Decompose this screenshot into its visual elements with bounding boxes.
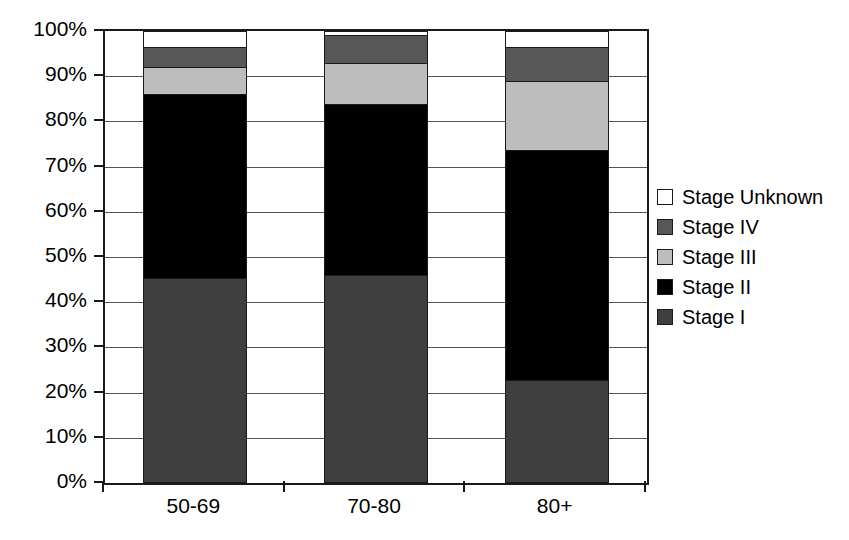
legend-item-stage-i[interactable]: Stage I bbox=[657, 302, 823, 332]
legend-item-label: Stage I bbox=[682, 307, 745, 327]
bar-segment-stage-ii[interactable] bbox=[324, 104, 428, 274]
y-axis-tick-label: 60% bbox=[0, 199, 87, 220]
bar-segment-stage-iii[interactable] bbox=[505, 81, 609, 150]
bar-segment-stage-i[interactable] bbox=[505, 380, 609, 483]
y-axis-tick-mark bbox=[94, 29, 103, 31]
y-axis-tick-label: 30% bbox=[0, 334, 87, 355]
y-axis-tick-label: 100% bbox=[0, 18, 87, 39]
y-axis-tick-mark bbox=[94, 74, 103, 76]
x-axis-label-80+: 80+ bbox=[475, 494, 635, 518]
legend-swatch-icon bbox=[657, 249, 673, 265]
bar-80+[interactable] bbox=[505, 31, 609, 483]
y-axis-tick-label: 20% bbox=[0, 380, 87, 401]
y-axis-tick-label: 0% bbox=[0, 470, 87, 491]
legend-swatch-icon bbox=[657, 309, 673, 325]
bar-50-69[interactable] bbox=[143, 31, 247, 483]
y-axis-tick-mark bbox=[94, 300, 103, 302]
bar-segment-stage-iv[interactable] bbox=[143, 47, 247, 67]
legend-swatch-icon bbox=[657, 219, 673, 235]
legend-item-label: Stage IV bbox=[682, 217, 759, 237]
x-axis-label-50-69: 50-69 bbox=[113, 494, 273, 518]
legend-swatch-icon bbox=[657, 279, 673, 295]
bar-segment-stage-iii[interactable] bbox=[143, 67, 247, 94]
bar-segment-stage-i[interactable] bbox=[143, 278, 247, 483]
chart-legend: Stage UnknownStage IVStage IIIStage IISt… bbox=[657, 182, 823, 332]
legend-item-stage-iv[interactable]: Stage IV bbox=[657, 212, 823, 242]
y-axis-tick-mark bbox=[94, 255, 103, 257]
x-axis-tick-mark bbox=[102, 481, 104, 492]
x-axis-label-70-80: 70-80 bbox=[294, 494, 454, 518]
legend-item-label: Stage III bbox=[682, 247, 757, 267]
bar-segment-stage-i[interactable] bbox=[324, 275, 428, 483]
bar-70-80[interactable] bbox=[324, 31, 428, 483]
y-axis-tick-label: 40% bbox=[0, 289, 87, 310]
x-axis-tick-mark bbox=[463, 481, 465, 492]
x-axis-tick-mark bbox=[644, 481, 646, 492]
y-axis-tick-label: 90% bbox=[0, 63, 87, 84]
y-axis-tick-mark bbox=[94, 436, 103, 438]
bar-segment-stage-ii[interactable] bbox=[143, 94, 247, 278]
legend-item-stage-iii[interactable]: Stage III bbox=[657, 242, 823, 272]
y-axis-tick-label: 10% bbox=[0, 425, 87, 446]
legend-item-label: Stage Unknown bbox=[682, 187, 823, 207]
y-axis-tick-mark bbox=[94, 165, 103, 167]
legend-item-stage-unknown[interactable]: Stage Unknown bbox=[657, 182, 823, 212]
y-axis-tick-mark bbox=[94, 391, 103, 393]
bar-segment-stage-iv[interactable] bbox=[324, 35, 428, 63]
y-axis-tick-mark bbox=[94, 345, 103, 347]
bar-segment-stage-ii[interactable] bbox=[505, 150, 609, 380]
y-axis-tick-label: 50% bbox=[0, 244, 87, 265]
y-axis-tick-mark bbox=[94, 119, 103, 121]
bar-segment-stage-unknown[interactable] bbox=[143, 31, 247, 47]
y-axis-tick-label: 70% bbox=[0, 154, 87, 175]
bar-segment-stage-iii[interactable] bbox=[324, 63, 428, 105]
bar-segment-stage-unknown[interactable] bbox=[324, 31, 428, 35]
y-axis-tick-mark bbox=[94, 210, 103, 212]
bar-segment-stage-unknown[interactable] bbox=[505, 31, 609, 47]
stacked-bar-chart: 0%10%20%30%40%50%60%70%80%90%100% 50-697… bbox=[0, 0, 849, 540]
legend-swatch-icon bbox=[657, 189, 673, 205]
x-axis-tick-mark bbox=[283, 481, 285, 492]
plot-area bbox=[103, 29, 649, 485]
bar-segment-stage-iv[interactable] bbox=[505, 47, 609, 81]
legend-item-stage-ii[interactable]: Stage II bbox=[657, 272, 823, 302]
legend-item-label: Stage II bbox=[682, 277, 751, 297]
y-axis-tick-label: 80% bbox=[0, 108, 87, 129]
